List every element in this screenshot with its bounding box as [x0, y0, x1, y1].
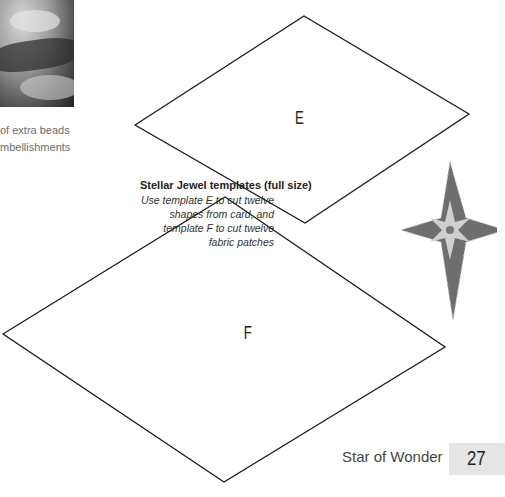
- template-f-label: F: [244, 322, 252, 344]
- star-ornament-icon: [401, 162, 505, 320]
- template-e-label: E: [295, 107, 304, 129]
- templates-drawing: [0, 0, 505, 497]
- template-f-outline: [3, 197, 445, 482]
- footer-chapter-title: Star of Wonder: [342, 448, 443, 465]
- page-edge: [497, 0, 505, 443]
- page-number: 27: [467, 446, 486, 470]
